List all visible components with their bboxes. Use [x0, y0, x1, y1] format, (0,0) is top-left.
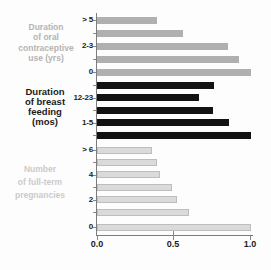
bar-number-of-full-term-pregnancies-6 — [97, 224, 251, 231]
relative-risk-bar-chart: Durationof oralcontraceptiveuse (yrs)Dur… — [0, 0, 271, 270]
bar-duration-of-oral-contraceptive-use-yrs-3 — [97, 56, 239, 63]
x-tick-label-05: 0.5 — [160, 239, 186, 249]
bar-number-of-full-term-pregnancies-5 — [97, 209, 189, 216]
bar-duration-of-breast-feeding-mos-4 — [97, 132, 251, 139]
x-tick-label-0: 0.0 — [84, 239, 110, 249]
category-label-2-3: 2-3 — [56, 41, 93, 51]
bar-number-of-full-term-pregnancies-0 — [97, 147, 152, 154]
bar-duration-of-breast-feeding-mos-2 — [97, 107, 213, 114]
category-label-1-5: 1-5 — [56, 118, 93, 128]
category-label-5: > 5 — [56, 15, 93, 25]
bar-number-of-full-term-pregnancies-3 — [97, 184, 172, 191]
bar-number-of-full-term-pregnancies-1 — [97, 159, 157, 166]
bar-duration-of-breast-feeding-mos-3 — [97, 119, 229, 126]
bar-number-of-full-term-pregnancies-2 — [97, 171, 160, 178]
bar-duration-of-breast-feeding-mos-1 — [97, 94, 199, 101]
bar-duration-of-breast-feeding-mos-0 — [97, 82, 214, 89]
x-axis — [96, 235, 253, 236]
y-axis — [96, 13, 97, 236]
plot-area: > 52-3012-231-5> 6420 — [0, 0, 271, 270]
category-label-4: 4 — [56, 170, 93, 180]
x-tick-label-10: 1.0 — [237, 239, 263, 249]
bar-duration-of-oral-contraceptive-use-yrs-4 — [97, 69, 251, 76]
category-label-6: > 6 — [56, 145, 93, 155]
bar-duration-of-oral-contraceptive-use-yrs-2 — [97, 43, 228, 50]
bar-duration-of-oral-contraceptive-use-yrs-1 — [97, 30, 183, 37]
category-label-0: 0 — [56, 67, 93, 77]
category-label-2: 2 — [56, 195, 93, 205]
category-label-0: 0 — [56, 222, 93, 232]
bar-duration-of-oral-contraceptive-use-yrs-0 — [97, 17, 157, 24]
category-label-12-23: 12-23 — [56, 93, 93, 103]
bar-number-of-full-term-pregnancies-4 — [97, 196, 177, 203]
